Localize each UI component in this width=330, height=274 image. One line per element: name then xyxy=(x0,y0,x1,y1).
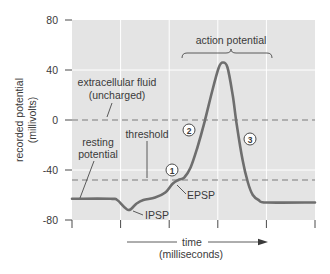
resting-potential-label: potential xyxy=(78,148,118,160)
action-potential-chart: 80400-40-80 recorded potential (millivol… xyxy=(0,0,330,274)
step-2-number: 2 xyxy=(187,126,192,136)
arrow-right-icon xyxy=(258,239,268,245)
y-axis-title-line2: (millivolts) xyxy=(26,97,38,144)
y-tick-label: 0 xyxy=(52,114,58,126)
uncharged-label: (uncharged) xyxy=(89,89,146,101)
step-3-marker: 3 xyxy=(244,133,256,145)
epsp-label: EPSP xyxy=(187,189,215,201)
y-axis-title-line1: recorded potential xyxy=(13,78,25,162)
action-potential-label: action potential xyxy=(196,34,267,46)
y-tick-label: -40 xyxy=(43,164,58,176)
y-tick-label: 40 xyxy=(46,64,58,76)
x-axis-title-line2: (milliseconds) xyxy=(159,248,223,260)
y-tick-label: 80 xyxy=(46,14,58,26)
resting-label: resting xyxy=(82,136,114,148)
step-3-number: 3 xyxy=(248,135,253,145)
x-axis-title-line1: time xyxy=(182,236,202,248)
threshold-label: threshold xyxy=(125,128,168,140)
step-2-marker: 2 xyxy=(183,124,195,136)
y-tick-label: -80 xyxy=(43,214,58,226)
step-1-marker: 1 xyxy=(166,164,178,176)
ipsp-label: IPSP xyxy=(145,209,169,221)
step-1-number: 1 xyxy=(170,166,175,176)
extracellular-fluid-label: extracellular fluid xyxy=(78,76,157,88)
